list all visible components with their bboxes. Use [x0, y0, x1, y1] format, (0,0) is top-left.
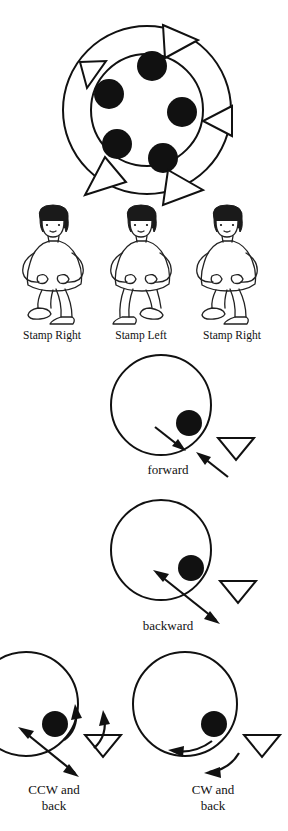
shoe-standing-shape	[113, 317, 136, 324]
hand-right-shape	[57, 275, 69, 284]
dress-outline	[201, 241, 255, 291]
dancer-figure-3	[186, 203, 268, 325]
eye-left-dot	[134, 224, 136, 226]
shoe-lifted-shape	[202, 308, 225, 319]
hand-right-shape	[231, 275, 243, 284]
forward-step-diagram	[108, 355, 276, 460]
direction-triangle-bottom	[163, 170, 203, 205]
formation-circle	[111, 500, 211, 600]
hand-left-shape	[211, 275, 222, 284]
eye-right-dot	[232, 224, 234, 226]
outer-ring-circle	[63, 26, 231, 194]
shoe-standing-shape	[224, 317, 248, 324]
hand-left-shape	[37, 275, 48, 284]
arm-left-line	[197, 253, 213, 282]
leg-lifted-line	[212, 290, 227, 308]
eye-right-dot	[58, 224, 60, 226]
dancer-dot	[42, 711, 68, 737]
cw-step-diagram	[128, 648, 288, 773]
eye-left-dot	[220, 224, 222, 226]
shoe-lifted-shape	[28, 308, 51, 319]
backward-caption: backward	[112, 618, 224, 634]
dancer-dot	[178, 555, 204, 581]
shoe-standing-shape	[50, 317, 74, 324]
face-shape	[130, 221, 152, 237]
direction-triangle	[218, 438, 254, 460]
direction-triangle	[220, 581, 256, 603]
direction-triangle-top	[163, 25, 198, 58]
dancer-dot	[102, 129, 132, 159]
dancer-dot	[201, 711, 227, 737]
ccw-step-diagram	[0, 648, 142, 773]
eye-right-dot	[146, 224, 148, 226]
dancer-dot	[148, 143, 178, 173]
formation-circle	[133, 652, 237, 756]
dancer-dot	[176, 410, 202, 436]
forward-caption: forward	[118, 462, 218, 478]
dancer-dot	[94, 79, 124, 109]
arm-left-line	[23, 253, 39, 282]
face-shape	[42, 221, 64, 237]
ccw-caption: CCW and back	[0, 782, 114, 814]
dancer-caption-3: Stamp Right	[180, 328, 284, 342]
dancer-figure-1	[12, 203, 94, 325]
direction-triangle	[85, 735, 121, 757]
dancer-caption-2: Stamp Left	[93, 328, 189, 342]
formation-circle	[111, 355, 211, 455]
backward-step-diagram	[108, 498, 276, 610]
cw-curved-arrow-outer	[204, 753, 239, 778]
dancer-dot	[137, 51, 167, 81]
direction-triangle	[244, 735, 280, 757]
dress-outline	[27, 241, 81, 291]
dress-outline	[115, 241, 169, 291]
dancer-figure-2	[100, 203, 182, 325]
hand-right-shape	[145, 275, 157, 284]
hand-left-shape	[125, 275, 136, 284]
dancer-caption-1: Stamp Right	[2, 328, 102, 342]
direction-triangle-right	[203, 106, 232, 136]
cw-caption: CW and back	[158, 782, 268, 814]
shoe-lifted-shape	[140, 308, 163, 319]
formation-circle	[0, 652, 78, 756]
circle-formation-diagram	[55, 18, 240, 203]
leg-lifted-line	[38, 290, 53, 308]
dancer-dot	[167, 97, 197, 127]
leg-lifted-line	[146, 290, 161, 308]
leg-standing-line	[56, 289, 72, 317]
face-shape	[216, 221, 238, 237]
leg-standing-line	[120, 289, 133, 317]
arm-left-line	[111, 253, 127, 282]
leg-standing-line	[230, 289, 246, 317]
eye-left-dot	[46, 224, 48, 226]
